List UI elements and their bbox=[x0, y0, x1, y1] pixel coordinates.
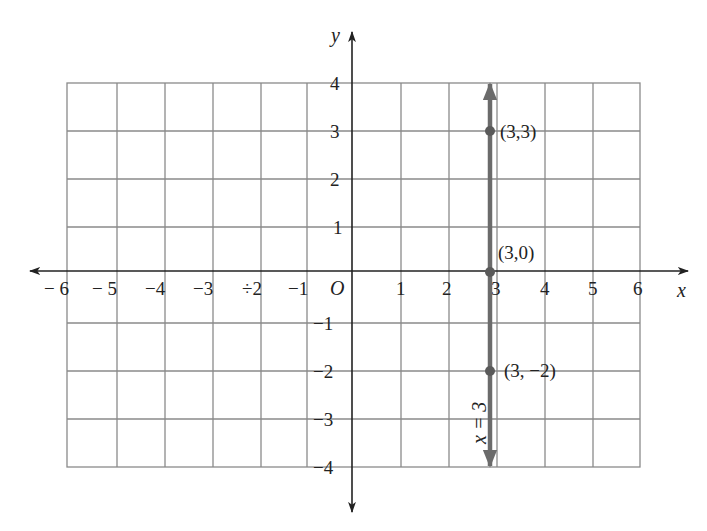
point-label-3-neg2: (3, −2) bbox=[504, 360, 556, 382]
svg-text:4: 4 bbox=[540, 278, 550, 299]
svg-text:−2: −2 bbox=[313, 361, 333, 382]
point-3-0 bbox=[485, 267, 495, 277]
svg-text:−3: −3 bbox=[313, 409, 333, 430]
svg-text:2: 2 bbox=[330, 169, 340, 190]
svg-text:−4: −4 bbox=[145, 278, 166, 299]
svg-text:−3: −3 bbox=[193, 278, 213, 299]
coordinate-plane: y x O − 6 − 5 −4 −3 ÷2 −1 1 2 3 4 5 6 4 … bbox=[0, 0, 707, 531]
point-label-3-3: (3,3) bbox=[500, 121, 536, 143]
svg-text:2: 2 bbox=[442, 278, 452, 299]
svg-text:4: 4 bbox=[330, 73, 340, 94]
x-axis-label: x bbox=[676, 279, 686, 301]
svg-text:÷2: ÷2 bbox=[242, 278, 262, 299]
point-3-3 bbox=[485, 126, 495, 136]
svg-text:− 5: − 5 bbox=[92, 278, 117, 299]
svg-text:−1: −1 bbox=[313, 313, 333, 334]
y-tick-labels: 4 3 2 1 −1 −2 −3 −4 bbox=[313, 73, 343, 478]
svg-text:3: 3 bbox=[330, 121, 340, 142]
point-label-3-0: (3,0) bbox=[498, 242, 534, 264]
svg-text:1: 1 bbox=[396, 278, 406, 299]
svg-text:−1: −1 bbox=[288, 278, 308, 299]
origin-label: O bbox=[330, 277, 344, 299]
svg-text:1: 1 bbox=[333, 217, 343, 238]
svg-text:5: 5 bbox=[588, 278, 598, 299]
svg-text:6: 6 bbox=[633, 278, 643, 299]
y-axis-label: y bbox=[329, 24, 340, 47]
point-3-neg2 bbox=[485, 366, 495, 376]
svg-text:−4: −4 bbox=[313, 457, 334, 478]
line-equation-label: x = 3 bbox=[468, 402, 490, 445]
svg-text:3: 3 bbox=[491, 278, 501, 299]
grid bbox=[67, 83, 640, 467]
svg-text:− 6: − 6 bbox=[44, 278, 69, 299]
